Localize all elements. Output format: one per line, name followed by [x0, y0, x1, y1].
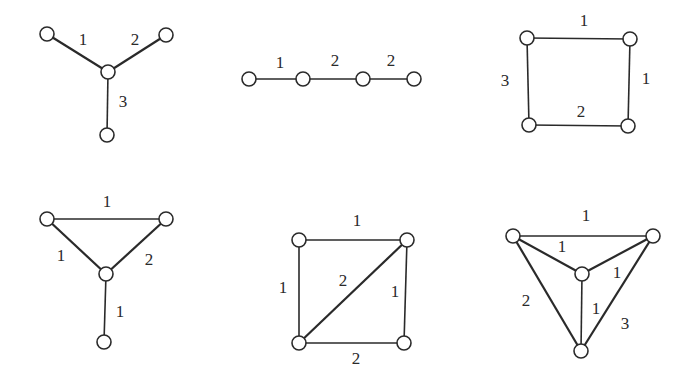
edge-a-c [527, 38, 529, 125]
edge-weight-label: 2 [577, 102, 586, 121]
node-d [621, 119, 635, 133]
edge-weight-label: 1 [57, 246, 66, 265]
edge-weight-label: 3 [501, 71, 510, 90]
node-b [646, 229, 660, 243]
node-c [99, 267, 113, 281]
graph-wheel-k4: 111123 [506, 206, 660, 358]
node-d [397, 336, 411, 350]
edge-weight-label: 2 [387, 51, 396, 70]
node-a [40, 27, 54, 41]
node-a [520, 31, 534, 45]
edge-weight-label: 1 [276, 53, 285, 72]
node-a [292, 233, 306, 247]
node-c [356, 72, 370, 86]
node-a [506, 229, 520, 243]
edge-weight-label: 2 [131, 30, 140, 49]
node-c [522, 118, 536, 132]
node-d [100, 128, 114, 142]
edge-weight-label: 1 [391, 282, 400, 301]
edge-weight-label: 1 [353, 211, 362, 230]
edge-c-d [104, 274, 106, 342]
node-c [292, 336, 306, 350]
edge-weight-label: 2 [339, 271, 348, 290]
node-b [296, 72, 310, 86]
edge-c-d [107, 72, 108, 135]
graphs-layer: 1231221123112111212111123 [40, 11, 660, 368]
edge-weight-label: 1 [116, 302, 125, 321]
edge-weight-label: 1 [580, 11, 589, 30]
graph-star-3: 123 [40, 27, 173, 142]
edge-weight-label: 1 [642, 69, 651, 88]
graph-path-4: 122 [242, 51, 421, 86]
edge-weight-label: 1 [582, 206, 591, 225]
edge-weight-label: 1 [558, 237, 567, 256]
graph-square-with-diagonal: 11212 [279, 211, 414, 368]
edge-weight-label: 1 [103, 192, 112, 211]
node-b [159, 28, 173, 42]
node-b [400, 233, 414, 247]
edge-weight-label: 2 [331, 51, 340, 70]
node-d [407, 72, 421, 86]
edge-weight-label: 3 [621, 314, 630, 333]
edge-weight-label: 2 [145, 250, 154, 269]
edge-b-d [581, 236, 653, 351]
node-d [97, 335, 111, 349]
node-d [574, 344, 588, 358]
edge-c-d [581, 274, 582, 351]
edge-weight-label: 3 [119, 92, 128, 111]
node-c [575, 267, 589, 281]
edge-b-c [106, 219, 166, 274]
node-b [623, 32, 637, 46]
edge-weight-label: 1 [279, 278, 288, 297]
edge-a-c [47, 34, 108, 72]
node-a [40, 212, 54, 226]
node-c [101, 65, 115, 79]
graph-cycle-4: 1123 [501, 11, 651, 133]
edge-b-d [404, 240, 407, 343]
graph-triangle-with-pendant: 1121 [40, 192, 173, 349]
graph-figure: 1231221123112111212111123 [0, 0, 693, 384]
node-a [242, 72, 256, 86]
edge-weight-label: 1 [79, 30, 88, 49]
edge-weight-label: 1 [613, 263, 622, 282]
edge-weight-label: 2 [352, 349, 361, 368]
edge-weight-label: 2 [522, 291, 531, 310]
node-b [159, 212, 173, 226]
edge-a-b [527, 38, 630, 39]
edge-b-d [628, 39, 630, 126]
edge-weight-label: 1 [592, 299, 601, 318]
edge-c-d [529, 125, 628, 126]
